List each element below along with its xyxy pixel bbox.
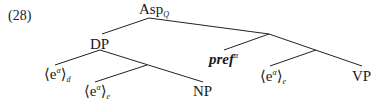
- branch-right-pref: [224, 34, 269, 50]
- tree-branches: [0, 0, 382, 103]
- branch-mid-ee: [95, 65, 147, 82]
- branch-asp-dp: [102, 18, 149, 34]
- branch-dp-ed: [55, 50, 100, 65]
- branch-dp-np: [100, 50, 203, 82]
- branch-asp-right: [149, 18, 269, 34]
- branch-mid-ee-right: [270, 50, 316, 66]
